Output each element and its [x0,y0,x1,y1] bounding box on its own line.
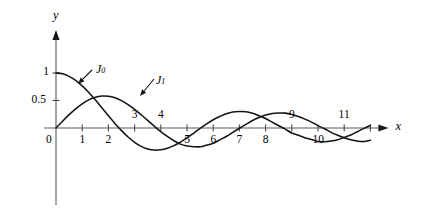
x-tick-label-4: 4 [158,108,164,120]
x-tick-label-5: 5 [184,133,190,145]
x-tick-label-2: 2 [106,133,112,145]
text-layer: yx012345678910110.51J0J1 [0,0,440,218]
y-tick-label-1: 1 [43,65,49,77]
x-axis-name: x [395,119,401,134]
x-tick-label-1: 1 [79,133,85,145]
x-tick-label-8: 8 [263,133,269,145]
x-tick-label-10: 10 [312,133,324,145]
x-tick-label-11: 11 [339,108,350,120]
y-tick-label-0-5: 0.5 [32,93,46,105]
x-tick-label-9: 9 [289,108,295,120]
x-tick-label-0: 0 [46,133,52,145]
x-tick-label-3: 3 [132,108,138,120]
J0-callout-label: J0 [96,62,105,77]
y-axis-name: y [53,8,59,23]
J1-callout-label: J1 [156,73,165,88]
x-tick-label-7: 7 [237,133,243,145]
bessel-function-figure: yx012345678910110.51J0J1 [0,0,440,218]
x-tick-label-6: 6 [210,133,216,145]
